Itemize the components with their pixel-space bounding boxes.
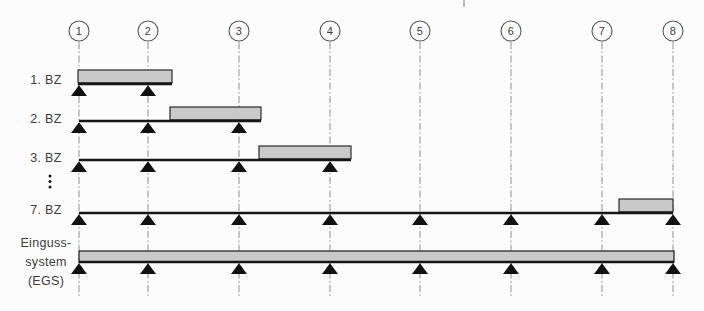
support-triangle-axis-5 <box>412 214 428 225</box>
support-triangle-axis-7 <box>594 263 610 274</box>
support-triangle-axis-3 <box>231 263 247 274</box>
support-triangle-axis-4 <box>322 263 338 274</box>
axis-number-6: 6 <box>508 25 514 37</box>
ellipsis-dot <box>49 175 52 178</box>
axis-number-8: 8 <box>670 25 676 37</box>
egs-slab <box>79 251 674 262</box>
new-concrete-segment <box>170 107 261 120</box>
ellipsis-dot <box>49 180 52 183</box>
row-label-line: Einguss- <box>20 236 71 250</box>
support-triangle-axis-4 <box>322 161 338 172</box>
axis-number-3: 3 <box>236 25 242 37</box>
row-7-bz: 7. BZ <box>30 199 681 225</box>
support-triangle-axis-6 <box>503 263 519 274</box>
axis-number-1: 1 <box>76 25 82 37</box>
row-einguss-system: Einguss-system(EGS) <box>20 236 681 288</box>
row-label: 3. BZ <box>30 151 61 165</box>
row-3-bz: 3. BZ <box>30 146 351 172</box>
support-triangle-axis-1 <box>71 263 87 274</box>
support-triangle-axis-2 <box>140 263 156 274</box>
support-triangle-axis-1 <box>71 122 87 133</box>
support-triangle-axis-2 <box>140 161 156 172</box>
construction-stages-diagram: 123456781. BZ2. BZ3. BZ7. BZEinguss-syst… <box>0 0 704 311</box>
figure-canvas: 123456781. BZ2. BZ3. BZ7. BZEinguss-syst… <box>0 0 704 311</box>
support-triangle-axis-8 <box>665 263 681 274</box>
axis-number-4: 4 <box>327 25 333 37</box>
support-triangle-axis-1 <box>71 214 87 225</box>
new-concrete-segment <box>78 70 172 83</box>
support-triangle-axis-3 <box>231 122 247 133</box>
support-triangle-axis-3 <box>231 161 247 172</box>
row-label: 1. BZ <box>30 73 61 87</box>
support-triangle-axis-6 <box>503 214 519 225</box>
support-triangle-axis-2 <box>140 214 156 225</box>
row-label: 2. BZ <box>30 112 61 126</box>
row-1-bz: 1. BZ <box>30 70 172 96</box>
support-triangle-axis-8 <box>665 214 681 225</box>
support-triangle-axis-5 <box>412 263 428 274</box>
row-label-line: (EGS) <box>28 274 64 288</box>
support-triangle-axis-3 <box>231 214 247 225</box>
axis-number-2: 2 <box>145 25 151 37</box>
ellipsis-dot <box>49 186 52 189</box>
support-triangle-axis-4 <box>322 214 338 225</box>
new-concrete-segment <box>619 199 673 212</box>
row-label-line: system <box>25 255 66 269</box>
new-concrete-segment <box>259 146 351 159</box>
support-triangle-axis-2 <box>140 122 156 133</box>
row-label: 7. BZ <box>30 203 61 217</box>
support-triangle-axis-7 <box>594 214 610 225</box>
axis-number-5: 5 <box>417 25 423 37</box>
rows-ellipsis <box>49 175 52 189</box>
support-triangle-axis-1 <box>71 161 87 172</box>
support-triangle-axis-1 <box>71 85 87 96</box>
row-2-bz: 2. BZ <box>30 107 261 133</box>
axis-number-7: 7 <box>599 25 605 37</box>
support-triangle-axis-2 <box>140 85 156 96</box>
